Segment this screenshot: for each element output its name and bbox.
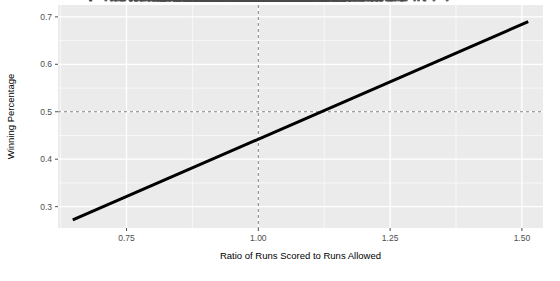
y-tick-label: 0.5 (40, 107, 52, 117)
y-axis-title: Winning Percentage (5, 74, 16, 160)
y-tick-label: 0.6 (40, 59, 52, 69)
data-point (432, 0, 435, 2)
scatter-points (89, 0, 449, 2)
data-point (413, 0, 416, 2)
plot-canvas: 0.751.001.251.500.30.40.50.60.7Ratio of … (0, 0, 560, 281)
y-tick-label: 0.3 (40, 202, 52, 212)
x-tick-label: 0.75 (118, 233, 135, 243)
data-point (446, 0, 449, 2)
x-axis-title: Ratio of Runs Scored to Runs Allowed (220, 250, 381, 261)
y-tick-label: 0.4 (40, 154, 52, 164)
x-tick-label: 1.50 (514, 233, 531, 243)
y-tick-label: 0.7 (40, 12, 52, 22)
x-tick-label: 1.00 (250, 233, 267, 243)
x-tick-label: 1.25 (382, 233, 399, 243)
data-point (117, 0, 120, 2)
scatter-plot-figure: 0.751.001.251.500.30.40.50.60.7Ratio of … (0, 0, 560, 281)
data-point (417, 0, 420, 2)
data-point (104, 0, 107, 2)
